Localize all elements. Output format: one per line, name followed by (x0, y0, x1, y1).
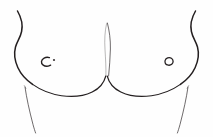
drawing-canvas: A minimal black ink line drawing on whit… (0, 0, 213, 137)
left-nipple-dot-icon (53, 59, 55, 61)
line-drawing (0, 0, 213, 137)
paper-background (0, 0, 213, 137)
